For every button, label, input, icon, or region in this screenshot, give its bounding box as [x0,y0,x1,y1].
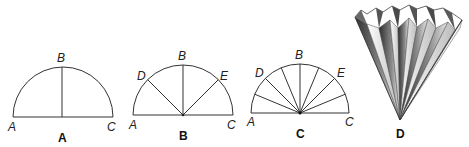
point-label-b: B [178,49,186,63]
filter-paper-folding-diagram: B A C A B D E A C B B D E A C C [0,0,469,147]
fold-line-e [183,80,218,115]
point-label-b: B [295,48,303,62]
point-label-c: C [107,120,116,134]
point-label-a: A [128,118,137,132]
point-label-d: D [137,69,146,83]
center-point [299,112,302,115]
panel-caption: C [296,127,305,141]
center-point [182,114,185,117]
panel-b: B D E A C B [128,49,236,143]
point-label-c: C [345,115,354,129]
panel-caption: B [179,129,188,143]
panel-c: B D E A C C [246,48,354,141]
point-label-e: E [337,66,346,80]
panel-d-fluted-cone: D [355,5,462,141]
point-label-b: B [57,51,65,65]
point-label-e: E [220,69,229,83]
point-label-c: C [227,118,236,132]
panel-caption: D [396,127,405,141]
point-label-a: A [246,115,255,129]
point-label-a: A [7,120,16,134]
fold-line-d [148,80,183,115]
point-label-d: D [255,66,264,80]
fold-line [265,78,300,113]
panel-caption: A [58,131,67,145]
fold-line [300,78,335,113]
semicircle [13,67,113,117]
panel-a: B A C A [7,51,116,145]
